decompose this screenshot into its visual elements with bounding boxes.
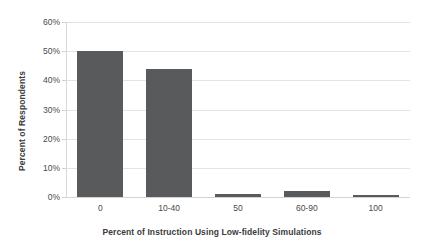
bar[interactable] — [77, 51, 123, 197]
y-axis-tick-label: 50% — [16, 46, 60, 56]
y-axis-tick-labels: 0%10%20%30%40%50%60% — [10, 22, 60, 197]
x-axis-tick-label: 50 — [204, 203, 273, 213]
bar-slot — [66, 22, 135, 197]
x-axis-tick-label: 100 — [341, 203, 410, 213]
y-axis-tick-label: 30% — [16, 105, 60, 115]
bar[interactable] — [353, 195, 399, 197]
bar-slot — [204, 22, 273, 197]
y-axis-tick-mark — [62, 22, 66, 23]
y-axis-tick-label: 0% — [16, 192, 60, 202]
y-axis-tick-mark — [62, 80, 66, 81]
y-axis-tick-label: 20% — [16, 134, 60, 144]
y-axis-tick-label: 40% — [16, 75, 60, 85]
y-axis-tick-label: 60% — [16, 17, 60, 27]
y-axis-tick-mark — [62, 197, 66, 198]
bar-slot — [341, 22, 410, 197]
bar-chart: Percent of Respondents 0%10%20%30%40%50%… — [0, 0, 424, 246]
y-axis-tick-mark — [62, 168, 66, 169]
y-axis-tick-label: 10% — [16, 163, 60, 173]
x-axis-tick-label: 60-90 — [272, 203, 341, 213]
bar-slot — [272, 22, 341, 197]
bar[interactable] — [284, 191, 330, 197]
bar-slot — [135, 22, 204, 197]
gridline — [66, 197, 410, 198]
bar[interactable] — [215, 194, 261, 197]
y-axis-tick-mark — [62, 51, 66, 52]
bar[interactable] — [146, 69, 192, 197]
bars-layer — [66, 22, 410, 197]
y-axis-tick-mark — [62, 110, 66, 111]
x-axis-title: Percent of Instruction Using Low-fidelit… — [0, 227, 424, 237]
x-axis-tick-label: 10-40 — [135, 203, 204, 213]
x-axis-tick-labels: 010-405060-90100 — [66, 203, 410, 217]
x-axis-tick-label: 0 — [66, 203, 135, 213]
y-axis-tick-mark — [62, 139, 66, 140]
